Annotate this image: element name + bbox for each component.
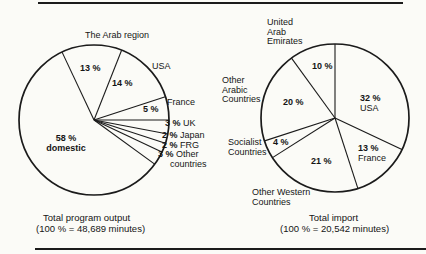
slice-label-uae: United Arab Emirates [267, 18, 307, 47]
pct-label-usa-import: 32 % [360, 93, 381, 103]
caption-output-total: (100 % = 48,689 minutes) [36, 223, 145, 234]
pct-label-other-western: 21 % [311, 157, 332, 167]
pct-label-uk: 3 % [165, 118, 181, 128]
slice-label-other-countries: 3 % Other countries [158, 150, 216, 169]
pct-label-usa-output: 14 % [112, 79, 133, 89]
slice-label-other-arabic: Other Arabic Countries [222, 76, 266, 105]
slice-label-usa-output: USA [152, 62, 171, 72]
slice-label-other-western: Other Western Countries [252, 188, 314, 207]
slice-label-uk: 3 % UK [165, 119, 196, 129]
pct-label-arab-region: 13 % [80, 64, 101, 74]
slice-label-france-output: France [167, 98, 195, 108]
pct-label-france-output: 5 % [143, 105, 159, 115]
figure-canvas: The Arab region 13 % USA 14 % France 5 %… [0, 0, 426, 254]
slice-boundary-line [94, 120, 155, 164]
slice-label-arab-region: The Arab region [85, 31, 149, 41]
pct-label-uae: 10 % [312, 62, 333, 72]
pct-label-japan: 2 % [162, 130, 178, 140]
pct-label-socialist: 4 % [273, 138, 289, 148]
caption-import-total: (100 % = 20,542 minutes) [280, 223, 389, 234]
slice-boundary-line [94, 120, 162, 152]
slice-boundary-line [335, 118, 358, 188]
slice-label-usa-import: 32 %USA [360, 94, 381, 113]
bottom-rule [35, 248, 426, 250]
caption-import-title: Total import [309, 212, 358, 223]
pct-label-other-countries: 3 % [158, 149, 174, 159]
pct-label-domestic: 58 % [56, 133, 77, 143]
slice-label-socialist: Socialist Countries [228, 138, 272, 157]
caption-output-title: Total program output [43, 212, 130, 223]
slice-label-domestic: 58 %domestic [40, 133, 92, 153]
slice-label-france-import: 13 %France [358, 144, 386, 163]
pct-label-other-arabic: 20 % [283, 98, 304, 108]
pct-label-france-import: 13 % [358, 143, 379, 153]
